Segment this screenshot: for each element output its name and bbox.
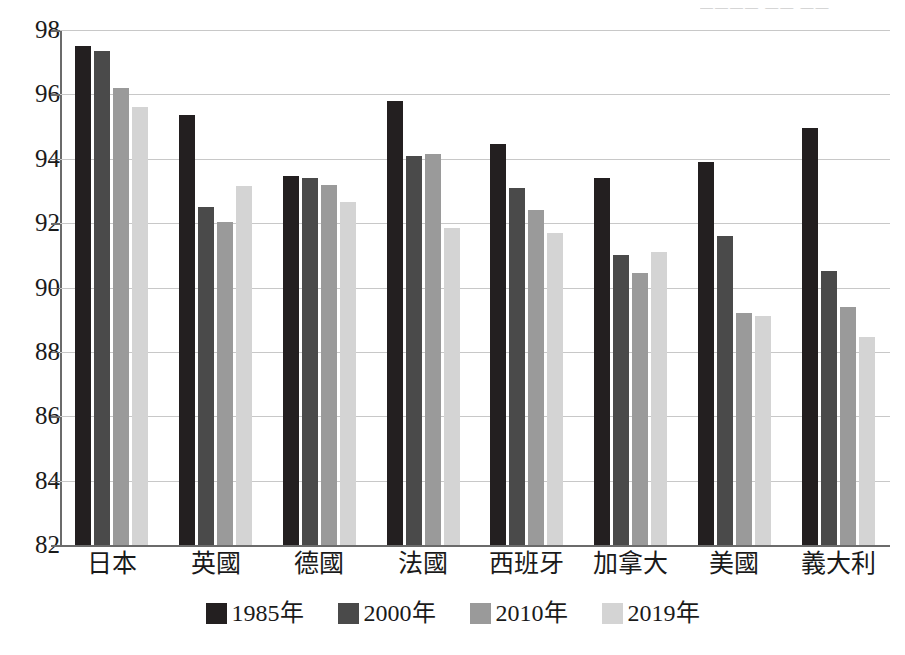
bar[interactable] bbox=[132, 107, 148, 545]
bar[interactable] bbox=[387, 101, 403, 545]
bar-group: 英國 bbox=[164, 30, 268, 545]
y-axis-tick-labels: 989694929088868482 bbox=[0, 0, 60, 655]
y-tick-mark bbox=[51, 416, 60, 418]
bar[interactable] bbox=[802, 128, 818, 545]
y-tick-mark bbox=[51, 94, 60, 96]
legend-label: 2019年 bbox=[628, 600, 700, 626]
bar[interactable] bbox=[509, 188, 525, 545]
bar[interactable] bbox=[113, 88, 129, 545]
y-tick-mark bbox=[51, 30, 60, 32]
x-axis-category-label: 日本 bbox=[60, 549, 164, 579]
bar[interactable] bbox=[528, 210, 544, 545]
x-axis-category-label: 加拿大 bbox=[579, 549, 683, 579]
bar[interactable] bbox=[425, 154, 441, 545]
bar[interactable] bbox=[736, 313, 752, 545]
bar[interactable] bbox=[75, 46, 91, 545]
legend-label: 1985年 bbox=[232, 600, 304, 626]
bar-group: 美國 bbox=[683, 30, 787, 545]
y-tick-mark bbox=[51, 159, 60, 161]
x-axis-category-label: 美國 bbox=[683, 549, 787, 579]
legend-item[interactable]: 2019年 bbox=[602, 600, 700, 626]
legend-swatch-icon bbox=[338, 603, 359, 624]
bar[interactable] bbox=[490, 144, 506, 545]
bar-group: 義大利 bbox=[786, 30, 890, 545]
plot-area: 日本英國德國法國西班牙加拿大美國義大利 bbox=[60, 30, 890, 545]
y-tick-mark bbox=[51, 352, 60, 354]
bar[interactable] bbox=[198, 207, 214, 545]
bar[interactable] bbox=[821, 271, 837, 545]
bar[interactable] bbox=[321, 185, 337, 546]
legend-swatch-icon bbox=[470, 603, 491, 624]
clipped-header-artifact: ———— —— —— bbox=[700, 0, 890, 9]
bar[interactable] bbox=[444, 228, 460, 545]
chart-legend: 1985年2000年2010年2019年 bbox=[0, 600, 905, 626]
bar[interactable] bbox=[236, 186, 252, 545]
bar[interactable] bbox=[698, 162, 714, 545]
bar-group: 法國 bbox=[371, 30, 475, 545]
x-axis-baseline bbox=[60, 545, 890, 547]
bar-chart: ———— —— —— 989694929088868482 日本英國德國法國西班… bbox=[0, 0, 905, 655]
bar[interactable] bbox=[94, 51, 110, 545]
legend-item[interactable]: 2000年 bbox=[338, 600, 436, 626]
bar[interactable] bbox=[755, 316, 771, 545]
bar[interactable] bbox=[840, 307, 856, 545]
bar[interactable] bbox=[340, 202, 356, 545]
legend-item[interactable]: 2010年 bbox=[470, 600, 568, 626]
bar[interactable] bbox=[179, 115, 195, 545]
bar-group: 加拿大 bbox=[579, 30, 683, 545]
legend-label: 2000年 bbox=[364, 600, 436, 626]
legend-swatch-icon bbox=[206, 603, 227, 624]
bar[interactable] bbox=[547, 233, 563, 545]
bar[interactable] bbox=[613, 255, 629, 545]
bar[interactable] bbox=[283, 176, 299, 545]
bar-group: 德國 bbox=[268, 30, 372, 545]
bar[interactable] bbox=[859, 337, 875, 545]
bar[interactable] bbox=[632, 273, 648, 545]
x-axis-category-label: 德國 bbox=[268, 549, 372, 579]
bar[interactable] bbox=[651, 252, 667, 545]
y-tick-mark bbox=[51, 545, 60, 547]
x-axis-category-label: 義大利 bbox=[786, 549, 890, 579]
bar[interactable] bbox=[217, 222, 233, 545]
x-axis-category-label: 西班牙 bbox=[475, 549, 579, 579]
bar-group: 日本 bbox=[60, 30, 164, 545]
y-tick-mark bbox=[51, 481, 60, 483]
x-axis-category-label: 法國 bbox=[371, 549, 475, 579]
bar[interactable] bbox=[302, 178, 318, 545]
legend-swatch-icon bbox=[602, 603, 623, 624]
legend-item[interactable]: 1985年 bbox=[206, 600, 304, 626]
bar[interactable] bbox=[594, 178, 610, 545]
y-tick-mark bbox=[51, 288, 60, 290]
bar[interactable] bbox=[717, 236, 733, 545]
y-tick-mark bbox=[51, 223, 60, 225]
bar-group: 西班牙 bbox=[475, 30, 579, 545]
bar[interactable] bbox=[406, 156, 422, 545]
legend-label: 2010年 bbox=[496, 600, 568, 626]
x-axis-category-label: 英國 bbox=[164, 549, 268, 579]
